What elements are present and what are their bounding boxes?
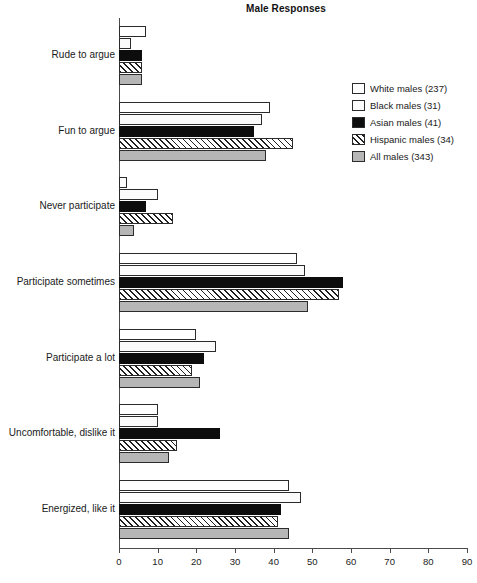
x-tick-label-90: 90: [455, 556, 477, 567]
legend-swatch-hispanic-males-34: [352, 134, 365, 145]
bar-never-participate-hispanic-males-34: [119, 213, 173, 224]
x-tick-label-0: 0: [107, 556, 131, 567]
bar-fun-to-argue-black-males-31: [119, 114, 262, 125]
bar-group-energized-like-it: [119, 480, 467, 540]
category-label-rude-to-argue: Rude to argue: [0, 49, 115, 60]
bar-participate-a-lot-white-males-237: [119, 329, 196, 340]
bar-energized-like-it-hispanic-males-34: [119, 516, 278, 527]
legend-item-hispanic-males-34: Hispanic males (34): [352, 131, 469, 147]
x-tick-90: [467, 548, 468, 553]
legend-swatch-all-males-343: [352, 151, 365, 162]
legend-label-hispanic-males-34: Hispanic males (34): [370, 134, 454, 145]
x-tick-50: [312, 548, 313, 553]
bar-rude-to-argue-black-males-31: [119, 38, 131, 49]
bar-participate-sometimes-asian-males-41: [119, 277, 343, 288]
bar-energized-like-it-white-males-237: [119, 480, 289, 491]
bar-uncomfortable-dislike-it-all-males-343: [119, 452, 169, 463]
bar-group-never-participate: [119, 177, 467, 237]
x-axis-line: [119, 548, 468, 549]
x-tick-70: [390, 548, 391, 553]
chart-legend: White males (237)Black males (31)Asian m…: [352, 80, 469, 165]
bar-energized-like-it-asian-males-41: [119, 504, 281, 515]
x-tick-80: [428, 548, 429, 553]
bar-rude-to-argue-all-males-343: [119, 74, 142, 85]
bar-uncomfortable-dislike-it-asian-males-41: [119, 428, 220, 439]
bar-never-participate-asian-males-41: [119, 201, 146, 212]
bar-participate-sometimes-black-males-31: [119, 265, 305, 276]
bar-participate-a-lot-hispanic-males-34: [119, 365, 192, 376]
x-tick-label-20: 20: [184, 556, 208, 567]
bar-rude-to-argue-white-males-237: [119, 26, 146, 37]
bar-group-participate-a-lot: [119, 329, 467, 389]
bar-participate-sometimes-all-males-343: [119, 301, 308, 312]
legend-item-black-males-31: Black males (31): [352, 97, 469, 113]
bar-group-uncomfortable-dislike-it: [119, 404, 467, 464]
legend-swatch-white-males-237: [352, 83, 365, 94]
bar-fun-to-argue-hispanic-males-34: [119, 138, 293, 149]
legend-item-white-males-237: White males (237): [352, 80, 469, 96]
bar-never-participate-all-males-343: [119, 225, 134, 236]
category-label-uncomfortable-dislike-it: Uncomfortable, dislike it: [0, 427, 115, 438]
x-tick-label-40: 40: [262, 556, 286, 567]
x-tick-0: [119, 548, 120, 553]
chart-title: Male Responses: [200, 3, 372, 14]
legend-label-black-males-31: Black males (31): [370, 100, 441, 111]
bar-fun-to-argue-all-males-343: [119, 150, 266, 161]
x-tick-label-50: 50: [300, 556, 324, 567]
category-axis-labels: Rude to argueFun to argueNever participa…: [0, 18, 115, 548]
legend-label-asian-males-41: Asian males (41): [370, 117, 441, 128]
x-tick-label-70: 70: [378, 556, 402, 567]
category-label-fun-to-argue: Fun to argue: [0, 125, 115, 136]
bar-group-participate-sometimes: [119, 253, 467, 313]
bar-participate-a-lot-black-males-31: [119, 341, 216, 352]
bar-uncomfortable-dislike-it-white-males-237: [119, 404, 158, 415]
legend-swatch-asian-males-41: [352, 117, 365, 128]
category-label-never-participate: Never participate: [0, 200, 115, 211]
bar-rude-to-argue-asian-males-41: [119, 50, 142, 61]
bar-energized-like-it-all-males-343: [119, 528, 289, 539]
x-tick-label-30: 30: [223, 556, 247, 567]
legend-label-all-males-343: All males (343): [370, 151, 433, 162]
legend-swatch-black-males-31: [352, 100, 365, 111]
x-tick-label-80: 80: [416, 556, 440, 567]
x-tick-20: [196, 548, 197, 553]
x-tick-40: [274, 548, 275, 553]
legend-label-white-males-237: White males (237): [370, 83, 447, 94]
x-tick-label-10: 10: [146, 556, 170, 567]
bar-fun-to-argue-white-males-237: [119, 102, 270, 113]
bar-never-participate-black-males-31: [119, 189, 158, 200]
bar-participate-a-lot-all-males-343: [119, 377, 200, 388]
x-tick-30: [235, 548, 236, 553]
category-label-participate-sometimes: Participate sometimes: [0, 276, 115, 287]
bar-rude-to-argue-hispanic-males-34: [119, 62, 142, 73]
x-tick-label-60: 60: [339, 556, 363, 567]
bar-energized-like-it-black-males-31: [119, 492, 301, 503]
category-label-participate-a-lot: Participate a lot: [0, 352, 115, 363]
x-tick-10: [158, 548, 159, 553]
bar-fun-to-argue-asian-males-41: [119, 126, 254, 137]
bar-group-rude-to-argue: [119, 26, 467, 86]
legend-item-asian-males-41: Asian males (41): [352, 114, 469, 130]
bar-never-participate-white-males-237: [119, 177, 127, 188]
category-label-energized-like-it: Energized, like it: [0, 503, 115, 514]
bar-participate-sometimes-hispanic-males-34: [119, 289, 339, 300]
x-tick-60: [351, 548, 352, 553]
bar-participate-sometimes-white-males-237: [119, 253, 297, 264]
bar-participate-a-lot-asian-males-41: [119, 353, 204, 364]
bar-uncomfortable-dislike-it-black-males-31: [119, 416, 158, 427]
bar-uncomfortable-dislike-it-hispanic-males-34: [119, 440, 177, 451]
legend-item-all-males-343: All males (343): [352, 148, 469, 164]
